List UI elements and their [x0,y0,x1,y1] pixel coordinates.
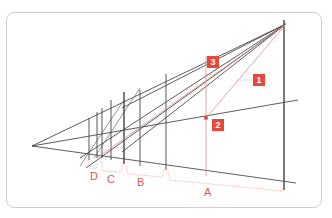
intersection-point [204,116,208,120]
segment-label-c: C [107,173,115,185]
badge-2: 2 [212,119,224,131]
segment-label-b: B [137,176,144,188]
segment-label-d: D [90,170,98,182]
perspective-diagram [0,0,332,218]
segment-label-a: A [204,186,211,198]
badge-1: 1 [253,74,265,86]
badge-3: 3 [207,56,219,68]
